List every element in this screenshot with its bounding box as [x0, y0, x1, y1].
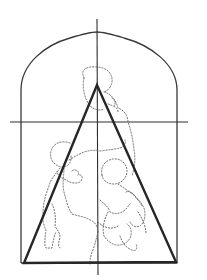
- figure-center-torso: [63, 168, 98, 232]
- figure-child-right-leg: [103, 212, 131, 245]
- figure-child-right-lower: [100, 200, 130, 214]
- composition-diagram: [0, 0, 207, 280]
- figure-child-right-body: [118, 184, 145, 227]
- figure-child-right-head: [102, 159, 127, 184]
- figure-center-leg: [90, 232, 98, 264]
- figure-child-right-arm: [126, 191, 142, 206]
- arched-frame-outline: [21, 32, 177, 263]
- figure-child-right-foot: [120, 236, 137, 251]
- figure-group-outline: [43, 67, 146, 264]
- figure-lower-drapery: [98, 212, 146, 234]
- arched-frame: [21, 32, 177, 263]
- composition-triangle: [24, 85, 176, 263]
